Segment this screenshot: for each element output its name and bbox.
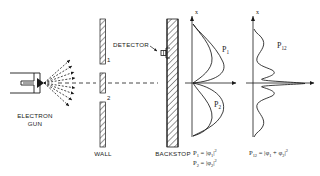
- slit-label-2: 2: [107, 95, 110, 101]
- formula-P12-lhs-sub: 12: [253, 153, 257, 158]
- backstop: [167, 19, 178, 147]
- formula-P12-exp: 2: [286, 148, 288, 153]
- wall-with-slits: [100, 19, 106, 147]
- curve-label-P12: P12: [277, 41, 287, 50]
- formula-P1: P1 = |φ1|2: [193, 148, 217, 158]
- formula-P2-eq: =: [199, 159, 206, 166]
- formula-P2-phi-sub: 2: [211, 163, 213, 168]
- formula-P12: P12 = |φ1 + φ2|2: [249, 148, 288, 158]
- backstop-label: BACKSTOP: [148, 150, 198, 157]
- formula-P2-lhs-sub: 2: [197, 163, 199, 168]
- electron-gun-label-line2: GUN: [6, 120, 64, 127]
- curve-label-P2-sub: 2: [218, 104, 221, 110]
- detector-leader-line: [150, 46, 157, 51]
- feynman-double-slit-figure: ELECTRON GUN 1 2 WALL DETECTOR BACKSTOP …: [0, 0, 320, 176]
- formula-P2: P2 = |φ2|2: [193, 158, 217, 168]
- formula-P1-phi-sub: 1: [211, 153, 213, 158]
- wall-label: WALL: [82, 150, 124, 157]
- plot-right-axes: [246, 16, 314, 137]
- plot-right-axis-label-x: x: [256, 9, 259, 15]
- formula-P1-exp: 2: [215, 148, 217, 153]
- slit-label-1: 1: [107, 57, 110, 63]
- curve-label-P1: P1: [222, 45, 229, 54]
- detector-label: DETECTOR: [113, 41, 149, 48]
- curve-label-P12-sub: 12: [281, 45, 286, 51]
- electron-gun-label-line1: ELECTRON: [6, 112, 64, 119]
- plot-left-axes: [185, 16, 236, 137]
- curve-label-P2: P2: [214, 100, 221, 109]
- plot-left-axis-label-x: x: [195, 9, 198, 15]
- formula-P1-eq: =: [199, 149, 206, 156]
- formula-P1-lhs-sub: 1: [197, 153, 199, 158]
- curve-label-P1-sub: 1: [226, 49, 229, 55]
- formula-P2-exp: 2: [215, 158, 217, 163]
- electron-gun-icon: [10, 73, 44, 93]
